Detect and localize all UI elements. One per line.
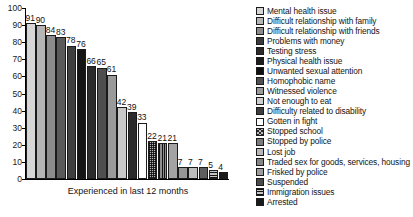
- bar: [77, 49, 87, 179]
- y-axis-tick-label: 30: [13, 124, 22, 133]
- legend-item-label: Traded sex for goods, services, housing: [267, 158, 410, 166]
- bar: [148, 141, 158, 179]
- legend-item-label: Difficult relationship with family: [267, 17, 376, 25]
- bar: [87, 66, 97, 179]
- legend-swatch-icon: [256, 47, 264, 55]
- legend-item-label: Lost job: [267, 148, 295, 156]
- y-axis-tick-labels: 1009080706050403020100: [0, 0, 24, 217]
- y-axis-tick-mark: [22, 42, 25, 43]
- legend-item-label: Physical health issue: [267, 57, 342, 65]
- y-axis-tick-mark: [22, 94, 25, 95]
- legend-item[interactable]: Traded sex for goods, services, housing: [256, 157, 413, 167]
- y-axis-tick-mark: [22, 128, 25, 129]
- bar-value-label: 66: [86, 57, 95, 66]
- legend-swatch-icon: [256, 107, 264, 115]
- bar: [209, 170, 219, 179]
- bar-value-label: 39: [127, 103, 136, 112]
- legend-item[interactable]: Suspended: [256, 177, 413, 187]
- legend-item[interactable]: Gotten in fight: [256, 117, 413, 127]
- legend-swatch-icon: [256, 138, 264, 146]
- legend-item[interactable]: Difficult relationship with family: [256, 16, 413, 26]
- bar: [128, 112, 138, 179]
- legend-swatch-icon: [256, 87, 264, 95]
- bar: [117, 107, 127, 179]
- y-axis-tick-mark: [22, 59, 25, 60]
- legend-item[interactable]: Difficulty related to disability: [256, 106, 413, 116]
- bar-value-label: 78: [66, 36, 75, 45]
- legend-item[interactable]: Problems with money: [256, 36, 413, 46]
- y-axis-tick-label: 10: [13, 158, 22, 167]
- legend-item-label: Testing stress: [267, 47, 316, 55]
- bar-value-label: 7: [178, 158, 183, 167]
- bar: [67, 46, 77, 179]
- legend-item[interactable]: Lost job: [256, 147, 413, 157]
- bar: [97, 68, 107, 179]
- legend-item[interactable]: Testing stress: [256, 46, 413, 56]
- legend-swatch-icon: [256, 118, 264, 126]
- bar: [107, 75, 117, 179]
- bar-value-label: 76: [76, 40, 85, 49]
- bar-value-label: 22: [147, 132, 156, 141]
- legend-item[interactable]: Witnessed violence: [256, 86, 413, 96]
- legend-item[interactable]: Arrested: [256, 197, 413, 207]
- legend-item[interactable]: Unwanted sexual attention: [256, 66, 413, 76]
- bar: [219, 172, 229, 179]
- legend-item-label: Unwanted sexual attention: [267, 67, 362, 75]
- bar-value-label: 91: [26, 14, 35, 23]
- legend-item-label: Gotten in fight: [267, 117, 317, 125]
- y-axis-tick-mark: [22, 8, 25, 9]
- legend-item[interactable]: Stopped school: [256, 127, 413, 137]
- bar: [138, 123, 148, 179]
- chart-figure: 1009080706050403020100 91908483787666656…: [0, 0, 413, 217]
- bar-value-label: 83: [56, 28, 65, 37]
- y-axis-tick-label: 60: [13, 72, 22, 81]
- legend-swatch-icon: [256, 148, 264, 156]
- bar-series: 91908483787666656142393322212177754: [26, 8, 229, 179]
- legend-item[interactable]: Not enough to eat: [256, 96, 413, 106]
- legend-swatch-icon: [256, 178, 264, 186]
- x-axis-title: Experienced in last 12 months: [26, 186, 230, 196]
- legend-item[interactable]: Difficult relationship with friends: [256, 26, 413, 36]
- legend-swatch-icon: [256, 7, 264, 15]
- bar-value-label: 84: [46, 26, 55, 35]
- legend-item-label: Immigration issues: [267, 188, 334, 196]
- bar: [178, 167, 188, 179]
- legend-item[interactable]: Physical health issue: [256, 56, 413, 66]
- bar-value-label: 7: [198, 158, 203, 167]
- legend-item[interactable]: Stopped by police: [256, 137, 413, 147]
- y-axis-tick-mark: [22, 179, 25, 180]
- legend-item-label: Mental health issue: [267, 7, 337, 15]
- legend-item-label: Problems with money: [267, 37, 344, 45]
- legend-item-label: Not enough to eat: [267, 97, 331, 105]
- legend-item-label: Stopped by police: [267, 137, 331, 145]
- x-axis-line: [25, 179, 229, 180]
- y-axis-tick-mark: [22, 76, 25, 77]
- legend-item-label: Arrested: [267, 198, 298, 206]
- legend-item[interactable]: Mental health issue: [256, 6, 413, 16]
- legend-item[interactable]: Frisked by police: [256, 167, 413, 177]
- bar: [188, 167, 198, 179]
- legend-swatch-icon: [256, 37, 264, 45]
- bar: [199, 167, 209, 179]
- legend: Mental health issueDifficult relationshi…: [256, 6, 413, 207]
- y-axis-tick-label: 100: [8, 4, 22, 13]
- legend-swatch-icon: [256, 17, 264, 25]
- legend-swatch-icon: [256, 188, 264, 196]
- legend-swatch-icon: [256, 77, 264, 85]
- bar: [36, 25, 46, 179]
- legend-item[interactable]: Homophobic name: [256, 76, 413, 86]
- legend-item-label: Frisked by police: [267, 168, 328, 176]
- legend-swatch-icon: [256, 27, 264, 35]
- bar: [56, 37, 66, 179]
- y-axis-tick-mark: [22, 25, 25, 26]
- y-axis-tick-label: 40: [13, 107, 22, 116]
- bar-value-label: 33: [137, 113, 146, 122]
- y-axis-tick-label: 20: [13, 141, 22, 150]
- bar: [158, 143, 168, 179]
- legend-item[interactable]: Immigration issues: [256, 187, 413, 197]
- bar: [168, 143, 178, 179]
- legend-swatch-icon: [256, 168, 264, 176]
- bar: [46, 35, 56, 179]
- bar-value-label: 61: [107, 65, 116, 74]
- y-axis-tick-mark: [22, 162, 25, 163]
